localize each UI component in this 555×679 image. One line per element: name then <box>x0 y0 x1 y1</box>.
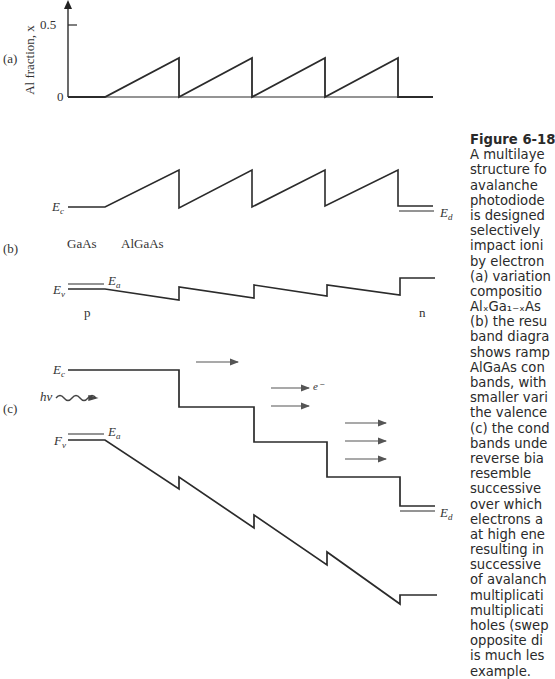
y-axis-arrow-icon <box>64 0 72 9</box>
tick-label-0-5: 0.5 <box>40 17 56 33</box>
caption-line: selectively <box>470 223 550 238</box>
caption-line: (a) variation <box>470 269 550 284</box>
caption-line: holes (swep <box>470 618 550 633</box>
caption-body: A multilayestructure foavalanchephotodio… <box>470 147 550 679</box>
photon-label: hν <box>40 389 52 405</box>
caption-line: band diagra <box>470 329 550 344</box>
caption-line: at high ene <box>470 527 550 542</box>
conduction-band-b <box>68 170 433 208</box>
caption-line: AlGaAs con <box>470 360 550 375</box>
caption-line: electrons a <box>470 512 550 527</box>
caption-line: resemble <box>470 466 550 481</box>
region-p-label: p <box>84 305 91 321</box>
caption-line: AlₓGa₁₋ₓAs <box>470 299 550 314</box>
y-axis-label: Al fraction, x <box>22 10 38 110</box>
caption-line: of avalanch <box>470 572 550 587</box>
electron-label: e⁻ <box>313 380 324 393</box>
caption-line: compositio <box>470 284 550 299</box>
valence-band-c <box>68 440 437 604</box>
caption-line: (c) the cond <box>470 421 550 436</box>
region-algaas-label: AlGaAs <box>121 236 164 252</box>
caption-line: impact ioni <box>470 238 550 253</box>
ev-label-b: Ev <box>53 282 65 299</box>
ea-label-b: Ea <box>108 273 120 290</box>
panel-a-label: (a) <box>3 51 17 67</box>
ed-label-c: Ed <box>440 505 452 522</box>
figure-caption: Figure 6-18 A multilayestructure foavala… <box>470 132 550 679</box>
caption-line: reverse bia <box>470 451 550 466</box>
al-fraction-sawtooth <box>68 58 433 97</box>
ed-label-b: Ed <box>440 205 452 222</box>
ea-label-c: Ea <box>108 424 120 441</box>
region-n-label: n <box>419 305 426 321</box>
tick-label-0: 0 <box>57 89 64 105</box>
panel-a-plot <box>64 0 433 97</box>
caption-line: successive <box>470 557 550 572</box>
caption-line: example. <box>470 664 550 679</box>
ec-label-b: Ec <box>52 199 64 216</box>
electron-arrows <box>196 362 386 459</box>
region-gaas-label: GaAs <box>67 236 97 252</box>
caption-title: Figure 6-18 <box>470 132 550 147</box>
caption-line: A multilaye <box>470 147 550 162</box>
ev-label-c: Fv <box>54 433 66 450</box>
panel-c-label: (c) <box>3 401 17 417</box>
photon-arrow-icon <box>56 396 96 401</box>
caption-line: structure fo <box>470 162 550 177</box>
caption-line: successive <box>470 481 550 496</box>
panel-c-plot <box>68 370 437 604</box>
caption-line: opposite di <box>470 633 550 648</box>
caption-line: avalanche <box>470 178 550 193</box>
caption-line: multiplicati <box>470 588 550 603</box>
conduction-band-c <box>68 370 435 506</box>
caption-line: photodiode <box>470 193 550 208</box>
caption-line: smaller vari <box>470 390 550 405</box>
panel-b-label: (b) <box>3 241 18 257</box>
caption-line: the valence <box>470 405 550 420</box>
caption-line: (b) the resu <box>470 314 550 329</box>
caption-line: bands, with <box>470 375 550 390</box>
caption-line: over which <box>470 497 550 512</box>
caption-line: shows ramp <box>470 345 550 360</box>
caption-line: is much les <box>470 648 550 663</box>
caption-line: resulting in <box>470 542 550 557</box>
caption-line: is designed <box>470 208 550 223</box>
caption-line: by electron <box>470 254 550 269</box>
panel-b-plot <box>68 170 435 300</box>
caption-line: multiplicati <box>470 603 550 618</box>
valence-band-b <box>68 278 435 300</box>
caption-line: bands unde <box>470 436 550 451</box>
ec-label-c: Ec <box>53 362 65 379</box>
